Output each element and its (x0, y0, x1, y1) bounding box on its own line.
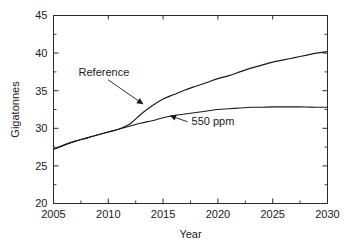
x-tick-label: 2010 (96, 208, 120, 220)
x-tick-label: 2020 (206, 208, 230, 220)
x-tick-label: 2025 (260, 208, 284, 220)
x-axis-major-ticks (54, 16, 328, 204)
ppm-annotation-leader-line (175, 117, 188, 122)
chart-figure: 202530354045 200520102015202020252030 Gi… (0, 0, 357, 252)
ppm-annotation-arrowhead-icon (170, 115, 177, 121)
y-tick-label: 35 (35, 85, 47, 97)
reference-annotation-leader-line (108, 80, 139, 102)
reference-annotation-label: Reference (79, 66, 130, 78)
ppm-annotation-label: 550 ppm (192, 115, 235, 127)
emissions-line-chart: 202530354045 200520102015202020252030 Gi… (0, 0, 357, 252)
y-axis-minor-ticks (54, 34, 328, 184)
y-axis-major-ticks (54, 16, 328, 204)
series-annotations: Reference550 ppm (79, 66, 235, 128)
x-tick-label: 2005 (41, 208, 65, 220)
plot-frame (54, 16, 328, 204)
x-axis-title: Year (179, 228, 202, 240)
x-axis-tick-labels: 200520102015202020252030 (41, 208, 339, 220)
y-axis-title: Gigatonnes (9, 81, 21, 138)
x-tick-label: 2015 (151, 208, 175, 220)
series-line-ppm550 (54, 107, 328, 150)
x-tick-label: 2030 (315, 208, 339, 220)
y-tick-label: 30 (35, 122, 47, 134)
y-tick-label: 40 (35, 47, 47, 59)
y-axis-tick-labels: 202530354045 (35, 9, 47, 209)
reference-annotation-arrowhead-icon (136, 98, 143, 104)
y-tick-label: 45 (35, 9, 47, 21)
y-tick-label: 25 (35, 160, 47, 172)
